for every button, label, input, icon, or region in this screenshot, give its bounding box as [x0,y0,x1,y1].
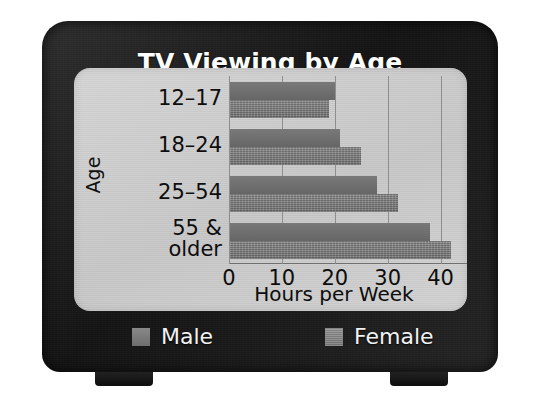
chart-legend: Male Female [42,324,498,358]
bar-male-2 [230,176,377,194]
y-axis-tick-labels: 12–1718–2425–5455 &older [92,76,222,272]
y-tick-label-line1: 55 & [172,216,222,240]
tv-bezel: TV Viewing by Age Age 12–1718–2425–5455 … [42,21,498,372]
male-swatch-icon [132,328,150,346]
tv-screen: Age 12–1718–2425–5455 &older 010203040 H… [74,68,467,311]
legend-item-female: Female [325,324,434,349]
y-tick-label-0: 12–17 [92,88,222,109]
bar-male-0 [230,82,335,100]
female-swatch-icon [325,328,343,346]
bar-male-1 [230,129,340,147]
y-tick-label-line2: older [92,239,222,260]
bar-female-2 [230,194,398,212]
bar-female-3 [230,241,451,259]
y-tick-label-line1: 25–54 [158,180,222,204]
x-axis-title: Hours per Week [194,282,467,306]
bar-male-3 [230,223,430,241]
y-tick-label-3: 55 &older [92,218,222,260]
y-tick-label-1: 18–24 [92,135,222,156]
legend-label-male: Male [161,324,213,349]
plot-area [229,76,467,272]
bar-female-0 [230,100,329,118]
y-tick-label-line1: 18–24 [158,133,222,157]
legend-item-male: Male [132,324,213,349]
figure-canvas: TV Viewing by Age Age 12–1718–2425–5455 … [0,0,540,405]
bar-female-1 [230,147,361,165]
y-tick-label-2: 25–54 [92,182,222,203]
legend-label-female: Female [354,324,434,349]
y-tick-label-line1: 12–17 [158,86,222,110]
gridline-x-40 [441,76,442,264]
x-axis-line [229,263,467,264]
